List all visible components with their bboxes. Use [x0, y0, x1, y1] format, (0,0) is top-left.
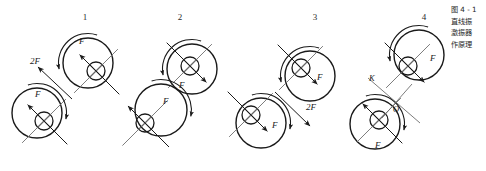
force-vector-arrow [167, 43, 207, 83]
rotor-body-circle [167, 44, 217, 94]
rotor: F [385, 25, 444, 87]
force-label: F [316, 72, 323, 82]
force-label: F [374, 140, 381, 150]
group-number-2: 2 [173, 12, 187, 22]
rotor-group-4: FFKO [350, 25, 444, 150]
force-label: F [429, 53, 436, 63]
caption-line-4: 作原理 [451, 39, 485, 51]
rotor-group-1: FF2F [12, 33, 119, 144]
figure-caption: 图 4 - 1 直线振 激振器 作原理 [451, 4, 485, 50]
caption-line-2: 直线振 [451, 16, 485, 28]
axis-label-k: K [368, 73, 376, 83]
group-number-4: 4 [417, 12, 431, 22]
caption-line-3: 激振器 [451, 27, 485, 39]
figure-linear-vibration-exciter: FF2FFFFF2FFFKO 1 2 3 4 图 4 - 1 直线振 激振器 作… [0, 0, 486, 171]
axis-label-o: O [393, 104, 399, 114]
force-label: F [78, 36, 85, 46]
diagram-canvas: FF2FFFFF2FFFKO [0, 0, 486, 171]
group-number-3: 3 [308, 12, 322, 22]
force-label: F [271, 120, 278, 130]
resultant-force-label: 2F [306, 102, 317, 112]
rotor: F [12, 83, 67, 144]
caption-line-1: 图 4 - 1 [451, 4, 485, 16]
resultant-force-label: 2F [30, 56, 41, 66]
force-label: F [162, 96, 169, 106]
rotor: F [278, 45, 335, 101]
rotor-group-3: FF2F [228, 45, 335, 148]
rotor-body-circle [135, 84, 187, 136]
rotor: F [58, 33, 119, 94]
resultant-force-arrow [275, 92, 310, 126]
force-label: F [34, 89, 41, 99]
force-vector-arrow [128, 106, 169, 147]
rotor: F [228, 92, 291, 148]
group-number-1: 1 [78, 12, 92, 22]
rotor-group-2: FF [122, 39, 217, 147]
resultant-force-arrow [38, 67, 72, 99]
